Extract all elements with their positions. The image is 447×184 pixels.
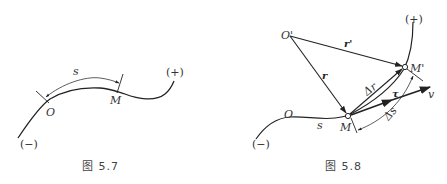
caption-5-8: 图 5.8 [325,160,362,173]
label-r: r [322,70,328,81]
label-s: s [317,119,323,132]
caption-5-7: 图 5.7 [82,160,119,173]
label-positive: (+) [405,13,423,26]
tick-m [351,118,357,133]
label-origin-o: O [284,108,293,121]
label-delta-r: Δr [360,80,380,99]
point-m-prime [402,64,407,69]
label-positive: (+) [166,66,184,79]
vector-r [290,36,346,113]
label-negative: (−) [20,138,38,151]
label-o-prime: O' [281,29,293,42]
label-negative: (−) [252,138,270,151]
label-point-m: M [109,94,122,107]
label-s: s [73,65,79,78]
arc-length-s [46,78,119,97]
figures-canvas: s O M (+) (−) 图 5.7 O' r r' M' M [0,0,447,184]
trajectory-curve [18,81,174,138]
label-r-prime: r' [344,38,352,49]
label-tau: τ [392,88,399,99]
label-v: v [428,88,435,101]
figure-5-8: O' r r' M' M Δr τ v Δs s O (+) (−) 图 5.8 [252,13,435,173]
tick-origin [36,91,49,103]
label-delta-s: Δs [380,104,400,124]
label-m-prime: M' [409,62,424,75]
point-m [345,113,350,118]
label-m: M [339,121,352,134]
label-origin-o: O [46,106,55,119]
tick-point-m [117,74,123,93]
figure-5-7: s O M (+) (−) 图 5.7 [18,65,184,173]
